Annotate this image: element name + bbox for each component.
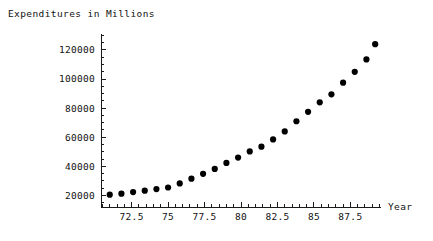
data-point <box>293 118 299 124</box>
data-points <box>107 41 379 198</box>
data-point <box>200 171 206 177</box>
data-point <box>142 188 148 194</box>
data-point <box>223 160 229 166</box>
data-point <box>177 180 183 186</box>
x-axis-tick-label: 77.5 <box>193 211 217 222</box>
data-point <box>352 69 358 75</box>
data-point <box>282 128 288 134</box>
data-point <box>328 91 334 97</box>
data-point <box>372 41 378 47</box>
y-axis-tick-label: 100000 <box>59 73 95 84</box>
x-axis-tick-label: 75 <box>162 211 174 222</box>
data-point <box>118 191 124 197</box>
data-point <box>153 186 159 192</box>
x-axis-tick-label: 85 <box>308 211 320 222</box>
data-point <box>165 184 171 190</box>
data-point <box>258 144 264 150</box>
data-point <box>340 80 346 86</box>
data-point <box>270 136 276 142</box>
y-axis-tick-label: 40000 <box>65 161 95 172</box>
scatter-chart: Expenditures in Millions 200004000060000… <box>0 0 433 241</box>
x-axis-tick-label: 87.5 <box>338 211 362 222</box>
x-axis-tick-label: 72.5 <box>120 211 144 222</box>
data-point <box>130 189 136 195</box>
data-point <box>188 176 194 182</box>
y-axis-tick-label: 20000 <box>65 190 95 201</box>
x-axis-tick-label: 82.5 <box>265 211 289 222</box>
x-axis-label: Year <box>388 201 412 212</box>
y-axis-tick-label: 60000 <box>65 132 95 143</box>
y-axis-tick-label: 120000 <box>59 44 95 55</box>
y-axis-tick-label: 80000 <box>65 103 95 114</box>
data-point <box>235 154 241 160</box>
data-point <box>107 192 113 198</box>
data-point <box>317 99 323 105</box>
plot-canvas: 20000400006000080000100000120000 72.5757… <box>0 0 433 241</box>
data-point <box>305 109 311 115</box>
y-axis: 20000400006000080000100000120000 <box>59 34 106 207</box>
x-axis: 72.57577.58082.58587.5 <box>101 202 381 222</box>
data-point <box>247 148 253 154</box>
data-point <box>363 56 369 62</box>
data-point <box>212 166 218 172</box>
x-axis-tick-label: 80 <box>235 211 247 222</box>
